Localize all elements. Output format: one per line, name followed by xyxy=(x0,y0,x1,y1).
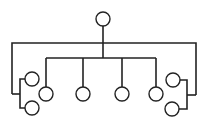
node-mid-2 xyxy=(76,87,90,101)
tree-diagram xyxy=(0,0,207,132)
node-right-top xyxy=(166,73,180,87)
node-left-bottom xyxy=(25,101,39,115)
node-mid-1 xyxy=(39,87,53,101)
node-right-bottom xyxy=(165,102,179,116)
node-root xyxy=(96,12,110,26)
node-mid-4 xyxy=(149,87,163,101)
node-left-top xyxy=(25,72,39,86)
node-mid-3 xyxy=(115,87,129,101)
